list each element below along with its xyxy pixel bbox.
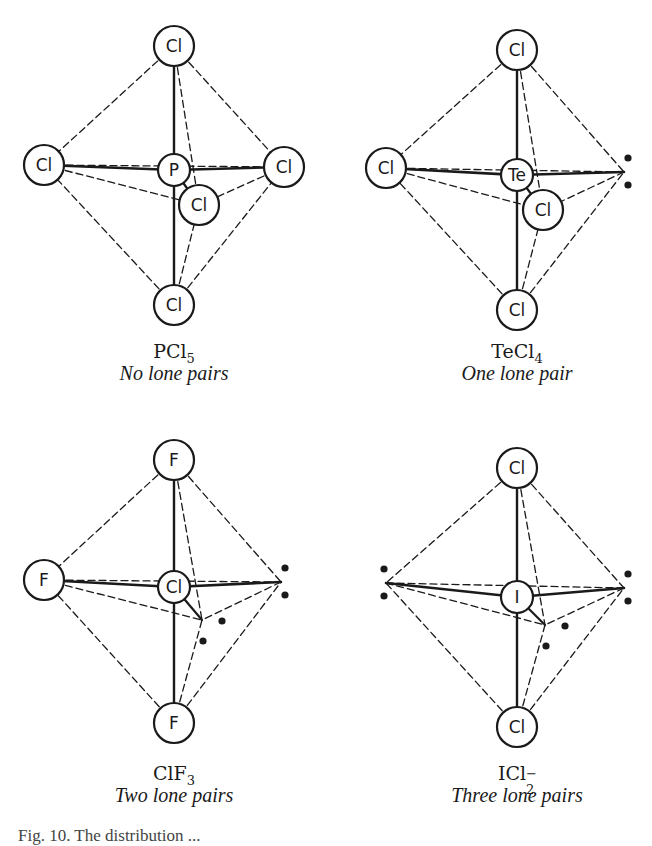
edge-dashed <box>44 46 174 165</box>
ligand-left-clf3-label: F <box>39 570 49 590</box>
ligand-bottom-tecl4-label: Cl <box>509 300 526 320</box>
edge-dashed <box>517 50 624 172</box>
ligand-right-pcl5-label: Cl <box>276 157 293 177</box>
ligand-left-pcl5-label: Cl <box>36 155 53 175</box>
subtitle-icl2: Three lone pairs <box>387 784 647 807</box>
edge-dashed <box>174 460 281 582</box>
edge-dashed <box>202 582 281 620</box>
central-atom-clf3-label: Cl <box>166 577 183 597</box>
ligand-bottom-clf3-label: F <box>169 713 179 733</box>
ligand-top-clf3-label: F <box>169 450 179 470</box>
lone-pair-electron-icon <box>380 592 387 599</box>
ligand-bottom-icl2-label: Cl <box>509 717 526 737</box>
edge-dashed <box>386 583 517 727</box>
edge-dashed <box>44 580 174 723</box>
subtitle-tecl4: One lone pair <box>387 362 647 385</box>
lone-pair-electron-icon <box>624 570 631 577</box>
edge-dashed <box>386 468 517 583</box>
figure-caption: Fig. 10. The distribution ... <box>18 826 200 846</box>
lone-pair-electron-icon <box>624 181 631 188</box>
lone-pair-electron-icon <box>624 154 631 161</box>
ligand-front-tecl4-label: Cl <box>535 200 552 220</box>
lone-pair-electron-icon <box>218 617 225 624</box>
ligand-top-pcl5-label: Cl <box>166 36 183 56</box>
lone-pair-electron-icon <box>199 637 206 644</box>
edge-dashed <box>386 168 517 310</box>
edge-dashed <box>174 582 281 723</box>
lone-pair-electron-icon <box>281 564 288 571</box>
ligand-top-tecl4-label: Cl <box>509 40 526 60</box>
lone-pair-electron-icon <box>542 642 549 649</box>
edge-dashed <box>44 165 174 305</box>
ligand-front-pcl5-label: Cl <box>191 195 208 215</box>
central-atom-tecl4-label: Te <box>507 165 526 185</box>
ligand-bottom-pcl5-label: Cl <box>166 295 183 315</box>
subtitle-clf3: Two lone pairs <box>44 784 304 807</box>
subtitle-pcl5: No lone pairs <box>44 362 304 385</box>
lone-pair-electron-icon <box>281 591 288 598</box>
formula-icl2: ICl−2 <box>407 762 627 784</box>
central-atom-pcl5-label: P <box>169 160 179 180</box>
edge-dashed <box>386 50 517 168</box>
lone-pair-electron-icon <box>380 565 387 572</box>
ligand-top-icl2-label: Cl <box>509 458 526 478</box>
lone-pair-electron-icon <box>624 597 631 604</box>
edge-dashed <box>517 468 624 588</box>
lone-pair-electron-icon <box>561 622 568 629</box>
ligand-left-tecl4-label: Cl <box>378 158 395 178</box>
central-atom-icl2-label: I <box>514 587 519 607</box>
edge-dashed <box>517 588 624 727</box>
edge-dashed <box>44 460 174 580</box>
